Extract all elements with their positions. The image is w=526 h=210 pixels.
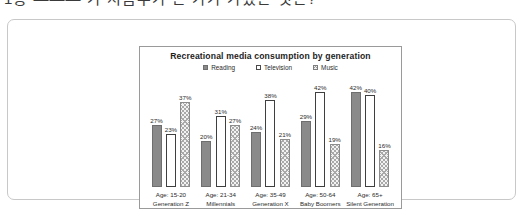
bar-music xyxy=(230,125,240,187)
bar-value-label: 27% xyxy=(229,117,241,124)
bar-music xyxy=(180,102,190,187)
category-generation: Millennials xyxy=(206,199,236,208)
bar-value-label: 29% xyxy=(300,113,312,120)
bar-value-label: 16% xyxy=(378,142,390,149)
bar-reading xyxy=(251,132,261,187)
clipped-top-text: 1층 ——— 가 처음수가 온 가가 가졌은 것은? xyxy=(4,0,317,8)
question-card: Recreational media consumption by genera… xyxy=(7,19,516,200)
bar-item-reading: 29% xyxy=(300,84,312,187)
bar-group-bars: 27% 23% 37% xyxy=(150,84,191,187)
bar-value-label: 31% xyxy=(215,108,227,115)
category-age: Age: 65+ xyxy=(346,190,394,199)
legend-label-reading: Reading xyxy=(211,64,235,71)
category-label: Age: 15-20 Generation Z xyxy=(153,190,189,208)
bar-television xyxy=(265,100,275,187)
bar-item-music: 27% xyxy=(229,84,241,187)
bar-item-music: 16% xyxy=(378,84,390,187)
bar-item-television: 38% xyxy=(264,84,276,187)
category-generation: Generation X xyxy=(252,199,288,208)
legend-swatch-music-icon xyxy=(313,65,318,70)
bar-television xyxy=(365,95,375,187)
bar-reading xyxy=(351,92,361,187)
bar-value-label: 40% xyxy=(364,87,376,94)
bar-item-music: 37% xyxy=(179,84,191,187)
chart-plot-area: 27% 23% 37% Age: 15-20 Generation Z xyxy=(140,73,401,208)
legend-label-television: Television xyxy=(264,64,292,71)
category-label: Age: 35-49 Generation X xyxy=(252,190,288,208)
bar-reading xyxy=(301,121,311,187)
bar-value-label: 20% xyxy=(200,133,212,140)
chart-container: Recreational media consumption by genera… xyxy=(139,46,402,209)
bar-group: 42% 40% 16% Age: 65+ Silent Generation xyxy=(345,84,395,208)
category-age: Age: 35-49 xyxy=(252,190,288,199)
legend-item-reading: Reading xyxy=(203,64,235,71)
category-label: Age: 21-34 Millennials xyxy=(206,190,236,208)
bar-value-label: 42% xyxy=(350,84,362,91)
bar-group: 27% 23% 37% Age: 15-20 Generation Z xyxy=(146,84,196,208)
bar-value-label: 24% xyxy=(250,124,262,131)
category-age: Age: 15-20 xyxy=(153,190,189,199)
bar-group: 20% 31% 27% Age: 21-34 Millennials xyxy=(196,84,246,208)
chart-title: Recreational media consumption by genera… xyxy=(140,51,401,61)
bar-item-music: 21% xyxy=(279,84,291,187)
bar-music xyxy=(379,150,389,187)
bar-music xyxy=(280,139,290,187)
bar-group-bars: 20% 31% 27% xyxy=(200,84,241,187)
legend-item-television: Television xyxy=(256,64,292,71)
bar-value-label: 23% xyxy=(165,126,177,133)
category-label: Age: 50-64 Baby Boomers xyxy=(300,190,341,208)
legend-item-music: Music xyxy=(313,64,338,71)
bar-value-label: 37% xyxy=(179,94,191,101)
bar-item-television: 42% xyxy=(314,84,326,187)
bar-group: 24% 38% 21% Age: 35-49 Generation X xyxy=(246,84,296,208)
legend-swatch-reading-icon xyxy=(203,65,208,70)
bar-reading xyxy=(152,125,162,187)
bar-television xyxy=(216,116,226,187)
bar-item-television: 31% xyxy=(215,84,227,187)
category-generation: Silent Generation xyxy=(346,199,394,208)
bar-music xyxy=(330,144,340,187)
bar-television xyxy=(315,92,325,187)
bar-value-label: 19% xyxy=(328,136,340,143)
category-generation: Generation Z xyxy=(153,199,189,208)
category-generation: Baby Boomers xyxy=(300,199,341,208)
bar-group-bars: 42% 40% 16% xyxy=(350,84,391,187)
bar-item-music: 19% xyxy=(328,84,340,187)
bar-item-reading: 42% xyxy=(350,84,362,187)
bar-value-label: 21% xyxy=(279,131,291,138)
category-age: Age: 21-34 xyxy=(206,190,236,199)
bar-value-label: 27% xyxy=(150,117,162,124)
bar-group: 29% 42% 19% Age: 50-64 Baby Boomers xyxy=(295,84,345,208)
legend-swatch-television-icon xyxy=(256,65,261,70)
chart-legend: Reading Television Music xyxy=(140,64,401,71)
bar-item-television: 40% xyxy=(364,84,376,187)
bar-item-reading: 24% xyxy=(250,84,262,187)
bar-item-reading: 27% xyxy=(150,84,162,187)
clipped-top-text-row: 1층 ——— 가 처음수가 온 가가 가졌은 것은? xyxy=(0,0,526,13)
bar-reading xyxy=(201,141,211,187)
category-label: Age: 65+ Silent Generation xyxy=(346,190,394,208)
bar-television xyxy=(166,134,176,187)
bar-item-reading: 20% xyxy=(200,84,212,187)
bar-group-bars: 24% 38% 21% xyxy=(250,84,291,187)
bar-value-label: 42% xyxy=(314,84,326,91)
bar-item-television: 23% xyxy=(165,84,177,187)
bar-group-bars: 29% 42% 19% xyxy=(300,84,341,187)
category-age: Age: 50-64 xyxy=(300,190,341,199)
bar-value-label: 38% xyxy=(264,92,276,99)
legend-label-music: Music xyxy=(321,64,338,71)
